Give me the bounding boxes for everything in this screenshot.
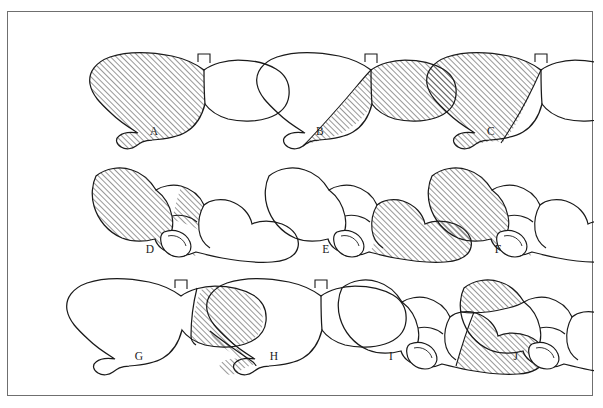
- panel-a[interactable]: [81, 45, 311, 160]
- panel-g-shading: [58, 271, 288, 386]
- panel-label-f: F: [483, 243, 513, 255]
- panel-label-h: H: [259, 350, 289, 362]
- porta-hepatis-contour: [535, 205, 546, 248]
- panel-label-c: C: [476, 125, 506, 137]
- gallbladder-fossa: [407, 342, 437, 369]
- ligament-stub-icon: [198, 54, 210, 63]
- panel-i-shading: [321, 271, 561, 386]
- panel-i[interactable]: [321, 271, 561, 386]
- porta-hepatis-contour: [567, 317, 578, 360]
- panel-c[interactable]: [418, 45, 594, 160]
- ligament-stub-icon: [175, 280, 187, 289]
- interlobar-fissure: [204, 70, 205, 104]
- ligament-stub-icon: [535, 54, 547, 63]
- hilar-plate-contour: [418, 327, 443, 334]
- hilar-plate-contour: [540, 327, 565, 334]
- ligament-stub-icon: [365, 54, 377, 63]
- panel-label-j: J: [501, 350, 531, 362]
- ligament-stub-icon: [315, 280, 327, 289]
- panel-label-g: G: [124, 350, 154, 362]
- figure-frame: A B C D E F G H I J: [7, 11, 593, 396]
- liver-diagram-canvas: [8, 12, 594, 397]
- hilar-plate-contour: [508, 215, 533, 222]
- interlobar-fissure: [321, 296, 322, 330]
- panel-label-i: I: [376, 350, 406, 362]
- panel-d[interactable]: [75, 159, 315, 274]
- panel-d-shading: [75, 159, 315, 274]
- porta-hepatis-contour: [199, 205, 210, 248]
- panel-label-a: A: [139, 125, 169, 137]
- gallbladder-fossa: [161, 230, 191, 257]
- panel-a-shading: [81, 45, 311, 160]
- porta-hepatis-contour: [445, 317, 456, 360]
- interlobar-fissure: [541, 70, 542, 104]
- panel-label-d: D: [135, 243, 165, 255]
- panel-g[interactable]: [58, 271, 288, 386]
- panel-c-shading: [418, 45, 594, 160]
- hilar-plate-contour: [345, 215, 370, 222]
- panel-label-b: B: [305, 125, 335, 137]
- panel-label-e: E: [311, 243, 341, 255]
